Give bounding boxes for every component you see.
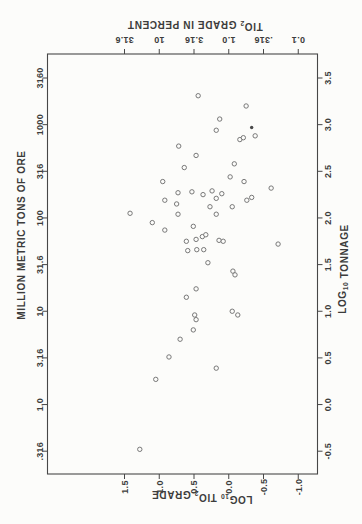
log-tonnage-tick-label: 2.5 bbox=[323, 165, 333, 178]
grade-percent-tick-label: 1.0 bbox=[222, 35, 235, 45]
data-point bbox=[214, 212, 218, 216]
data-point bbox=[232, 162, 236, 166]
grade-percent-tick-label: 3.16 bbox=[185, 35, 204, 45]
data-point bbox=[196, 94, 200, 98]
data-point bbox=[269, 186, 273, 190]
data-point bbox=[174, 202, 178, 206]
data-point bbox=[228, 175, 232, 179]
data-point bbox=[161, 179, 165, 183]
tonnage-units-tick-label: 10 bbox=[35, 306, 45, 317]
axis-title-grade-percent: TIO2 GRADE IN PERCENT bbox=[127, 19, 262, 33]
data-point bbox=[195, 247, 199, 251]
data-point bbox=[163, 198, 167, 202]
data-point bbox=[194, 317, 198, 321]
data-point bbox=[178, 337, 182, 341]
tonnage-units-tick-label: 1.0 bbox=[35, 398, 45, 411]
tonnage-units-tick-label: 3160 bbox=[35, 67, 45, 88]
log-tonnage-tick-label: 2.0 bbox=[323, 211, 333, 224]
tonnage-units-tick-label: 316 bbox=[35, 163, 45, 179]
log-tonnage-tick-label: 0.0 bbox=[323, 398, 333, 411]
tonnage-units-tick-label: 3.16 bbox=[35, 349, 45, 368]
data-point bbox=[220, 191, 224, 195]
scatter-plot-svg: 3.531603.010002.53162.01001.531.61.0100.… bbox=[0, 0, 362, 524]
data-point bbox=[206, 261, 210, 265]
data-point bbox=[214, 366, 218, 370]
data-point bbox=[221, 239, 225, 243]
data-point bbox=[208, 205, 212, 209]
tonnage-units-tick-label: 1000 bbox=[35, 114, 45, 135]
data-point bbox=[218, 117, 222, 121]
grade-percent-tick-label: 31.6 bbox=[115, 35, 134, 45]
data-point bbox=[201, 192, 205, 196]
log-grade-tick-label: 0.0 bbox=[224, 480, 234, 493]
data-point bbox=[253, 134, 257, 138]
axis-title-log-tonnage: LOG10 TONNAGE bbox=[337, 224, 351, 314]
data-point bbox=[163, 228, 167, 232]
log-tonnage-tick-label: 1.0 bbox=[323, 305, 333, 318]
data-point bbox=[138, 447, 142, 451]
data-point bbox=[184, 295, 188, 299]
data-point bbox=[190, 190, 194, 194]
data-point bbox=[244, 104, 248, 108]
data-point bbox=[167, 355, 171, 359]
log-tonnage-tick-label: 0.5 bbox=[323, 351, 333, 364]
data-point bbox=[186, 248, 190, 252]
data-point bbox=[230, 309, 234, 313]
data-point bbox=[242, 179, 246, 183]
data-point bbox=[230, 205, 234, 209]
data-point bbox=[202, 247, 206, 251]
data-point bbox=[150, 220, 154, 224]
log-tonnage-tick-label: -0.5 bbox=[323, 443, 333, 460]
data-point bbox=[128, 211, 132, 215]
data-point bbox=[233, 273, 237, 277]
log-grade-tick-label: -1.0 bbox=[293, 479, 303, 496]
data-point bbox=[210, 189, 214, 193]
data-point bbox=[192, 313, 196, 317]
data-point bbox=[194, 287, 198, 291]
data-point bbox=[241, 136, 245, 140]
grade-percent-tick-label: 10 bbox=[154, 35, 165, 45]
log-tonnage-tick-label: 3.0 bbox=[323, 118, 333, 131]
grade-percent-tick-label: 0.1 bbox=[292, 35, 305, 45]
tonnage-units-tick-label: 31.6 bbox=[35, 255, 45, 274]
data-point-filled bbox=[250, 126, 253, 129]
data-point bbox=[177, 144, 181, 148]
plot-frame bbox=[48, 54, 318, 474]
data-point bbox=[249, 195, 253, 199]
data-point bbox=[194, 153, 198, 157]
axis-title-million-metric-tons: MILLION METRIC TONS OF ORE bbox=[16, 150, 27, 319]
data-point bbox=[194, 237, 198, 241]
data-point bbox=[154, 377, 158, 381]
log-grade-tick-label: 1.5 bbox=[120, 480, 130, 493]
tonnage-units-tick-label: 100 bbox=[35, 210, 45, 226]
data-point bbox=[245, 198, 249, 202]
log-grade-tick-label: -0.5 bbox=[259, 479, 269, 496]
data-point bbox=[214, 128, 218, 132]
data-point bbox=[176, 212, 180, 216]
data-point bbox=[184, 239, 188, 243]
data-point bbox=[204, 233, 208, 237]
axis-title-log-grade: LOG10 TIO2 GRADE bbox=[152, 489, 253, 505]
data-point bbox=[276, 242, 280, 246]
data-point bbox=[191, 224, 195, 228]
data-point bbox=[236, 313, 240, 317]
grade-percent-tick-label: .316 bbox=[254, 35, 273, 45]
log-tonnage-tick-label: 1.5 bbox=[323, 258, 333, 271]
tonnage-units-tick-label: .316 bbox=[35, 442, 45, 461]
log-tonnage-tick-label: 3.5 bbox=[323, 71, 333, 84]
data-point bbox=[176, 191, 180, 195]
data-point bbox=[182, 165, 186, 169]
data-point bbox=[191, 328, 195, 332]
grade-tonnage-scatter-figure: 3.531603.010002.53162.01001.531.61.0100.… bbox=[0, 0, 362, 524]
data-point bbox=[214, 196, 218, 200]
